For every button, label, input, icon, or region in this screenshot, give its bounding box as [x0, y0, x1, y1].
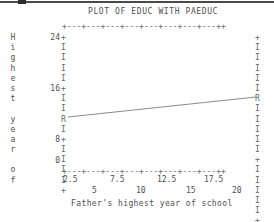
spine-char: I: [255, 64, 267, 74]
y-axis-title-char: e: [6, 125, 20, 135]
spine-char: I: [255, 176, 267, 186]
y-axis-title-char: [6, 155, 20, 165]
y-axis-title-char: h: [6, 64, 20, 74]
spine-char: +: [61, 135, 71, 145]
chart-title: PLOT OF EDUC WITH PAEDUC: [88, 7, 218, 16]
x-tick-label-20: 20: [232, 186, 242, 195]
plot-top-border: +---+---+---+---+---+---+---+---++: [62, 22, 226, 31]
spine-char: I: [255, 196, 267, 206]
top-edge-artifact: [0, 1, 274, 3]
y-axis-title-char: [6, 104, 20, 114]
spine-char: I: [255, 145, 267, 155]
spine-char: I: [255, 84, 267, 94]
y-axis-title-char: g: [6, 53, 20, 63]
y-axis-title-char: s: [6, 84, 20, 94]
spine-char: I: [61, 104, 71, 114]
spine-char: +: [61, 84, 71, 94]
spine-char: I: [255, 125, 267, 135]
spine-char: I: [61, 145, 71, 155]
y-tick-label-16: 16: [40, 84, 60, 93]
x-tick-label-7-5: 7.5: [110, 175, 124, 184]
y-tick-label-8: 8: [40, 135, 60, 144]
x-axis-title: Father's highest year of school: [71, 199, 233, 208]
y-axis-title-char: y: [6, 115, 20, 125]
x-tick-label-10: 10: [136, 186, 146, 195]
spine-char: +: [255, 155, 267, 165]
spine-char: I: [255, 74, 267, 84]
spine-char: +: [61, 186, 71, 196]
spine-char: I: [255, 135, 267, 145]
spine-char: I: [255, 206, 267, 216]
regression-marker-left: R: [61, 115, 71, 125]
x-tick-label-15: 15: [186, 186, 196, 195]
y-axis-title-char: t: [6, 94, 20, 104]
spine-char: I: [61, 125, 71, 135]
spine-char: I: [255, 165, 267, 175]
x-tick-label-17-5: 17.5: [204, 175, 223, 184]
y-axis-title: H i g h e s t y e a r o f: [6, 33, 20, 186]
y-tick-label-24: 24: [40, 33, 60, 42]
spine-char: I: [255, 186, 267, 196]
spine-char: +: [255, 33, 267, 43]
y-axis-right-spine: + I I I I I R I I I I I + I I I I I + ++: [255, 33, 267, 222]
spine-char: I: [255, 53, 267, 63]
x-axis-line: +---+---+---+---+---+---+---+---++: [62, 167, 226, 176]
y-axis-title-char: f: [6, 176, 20, 186]
x-tick-label-12-5: 12.5: [157, 175, 176, 184]
y-axis-title-char: H: [6, 33, 20, 43]
top-edge-artifact-mark: [18, 0, 26, 4]
spine-char: +: [255, 216, 267, 222]
y-axis-title-char: o: [6, 165, 20, 175]
spine-char: I: [255, 104, 267, 114]
y-axis-title-char: a: [6, 135, 20, 145]
spine-char: I: [61, 74, 71, 84]
y-axis-title-char: e: [6, 74, 20, 84]
spine-char: I: [255, 43, 267, 53]
y-axis-title-char: i: [6, 43, 20, 53]
spine-char: I: [61, 94, 71, 104]
y-tick-label-0: 0: [40, 156, 60, 165]
spine-char: I: [61, 43, 71, 53]
plot-screenshot: PLOT OF EDUC WITH PAEDUC H i g h e s t y…: [0, 0, 274, 222]
y-axis-title-char: r: [6, 145, 20, 155]
x-tick-label-5: 5: [92, 186, 97, 195]
spine-char: +: [61, 33, 71, 43]
spine-char: I: [61, 53, 71, 63]
regression-marker-right: R: [255, 94, 267, 104]
x-tick-label-2-5: 2.5: [63, 175, 77, 184]
spine-char: I: [61, 64, 71, 74]
spine-char: I: [255, 115, 267, 125]
spine-char: I: [61, 155, 71, 165]
